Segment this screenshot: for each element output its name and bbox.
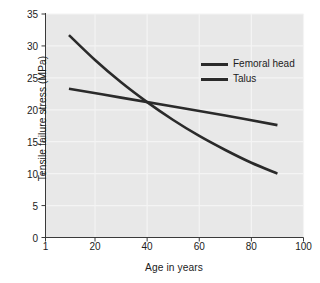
x-tick-label-text: 80 [231, 241, 271, 252]
y-tick-label-text: 10 [20, 168, 38, 179]
x-tick-label-text: 60 [179, 241, 219, 252]
x-tick-label-text: 40 [127, 241, 167, 252]
legend-item-femoral-head: Femoral head [201, 58, 295, 70]
x-tick-label-text: 20 [75, 241, 115, 252]
y-tick-label-text: 30 [20, 40, 38, 51]
chart-legend: Femoral head Talus [201, 58, 295, 85]
y-tick-label-text: 25 [20, 72, 38, 83]
x-axis-title: Age in years [45, 262, 303, 273]
plot-area-background [45, 14, 303, 237]
x-tick-label-text: 1 [26, 241, 66, 252]
x-tick-label: 100 [284, 241, 320, 255]
x-tick-label: 20 [75, 241, 115, 255]
legend-line-swatch-icon [201, 63, 228, 66]
x-tick-label: 1 [26, 241, 66, 255]
x-tick-label: 80 [231, 241, 271, 255]
y-tick-label-text: 20 [20, 104, 38, 115]
y-tick-label-text: 5 [20, 200, 38, 211]
y-axis-title: Tensile failure stress (MPa) [37, 9, 48, 229]
x-tick-label-text: 100 [284, 241, 320, 252]
y-tick-label-text: 15 [20, 136, 38, 147]
legend-label: Femoral head [233, 58, 295, 70]
legend-line-swatch-icon [201, 78, 228, 81]
y-tick-label-text: 35 [20, 9, 38, 20]
chart-figure: 05101520253035 120406080100 Tensile fail… [0, 0, 320, 283]
legend-label: Talus [233, 73, 256, 85]
legend-item-talus: Talus [201, 73, 295, 85]
x-tick-label: 60 [179, 241, 219, 255]
x-tick-label: 40 [127, 241, 167, 255]
